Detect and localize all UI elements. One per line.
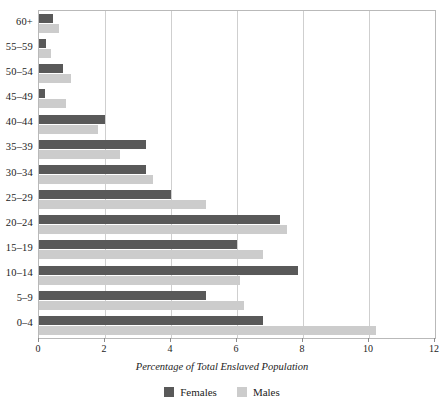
- bar-males: [39, 99, 66, 108]
- y-axis-tick-label: 35–39: [0, 141, 33, 152]
- bar-males: [39, 125, 98, 134]
- bar-females: [39, 240, 237, 249]
- bar-group: [39, 212, 435, 237]
- bar-males: [39, 276, 240, 285]
- bar-group: [39, 237, 435, 262]
- y-axis-tick-label: 25–29: [0, 192, 33, 203]
- x-axis-tick-mark: [104, 338, 105, 342]
- x-axis-title: Percentage of Total Enslaved Population: [0, 361, 444, 372]
- plot-area: [38, 10, 436, 339]
- y-axis-tick-label: 40–44: [0, 116, 33, 127]
- legend-item: Females: [164, 386, 217, 398]
- x-axis-tick-label: 4: [168, 343, 173, 354]
- y-axis-tick-label: 55–59: [0, 41, 33, 52]
- y-axis-tick-label: 20–24: [0, 217, 33, 228]
- bar-males: [39, 175, 153, 184]
- bar-males: [39, 301, 244, 310]
- bar-group: [39, 162, 435, 187]
- bar-males: [39, 225, 287, 234]
- x-axis-tick-label: 8: [300, 343, 305, 354]
- bar-females: [39, 266, 298, 275]
- x-axis-tick-mark: [38, 338, 39, 342]
- bar-group: [39, 313, 435, 338]
- y-axis-tick-label: 5–9: [0, 292, 33, 303]
- y-axis-labels: 0–45–910–1415–1920–2425–2930–3435–3940–4…: [0, 10, 33, 337]
- bar-females: [39, 165, 146, 174]
- bar-group: [39, 187, 435, 212]
- bar-females: [39, 140, 146, 149]
- y-axis-tick-label: 15–19: [0, 242, 33, 253]
- bar-rows: [39, 11, 435, 338]
- bar-females: [39, 39, 46, 48]
- bar-group: [39, 61, 435, 86]
- x-axis-tick-label: 6: [234, 343, 239, 354]
- bar-females: [39, 64, 63, 73]
- y-axis-tick-label: 60+: [0, 16, 33, 27]
- y-axis-tick-label: 10–14: [0, 267, 33, 278]
- x-axis-tick-mark: [368, 338, 369, 342]
- bar-males: [39, 74, 71, 83]
- legend-item: Males: [237, 386, 280, 398]
- bar-males: [39, 326, 376, 335]
- bar-group: [39, 288, 435, 313]
- legend-swatch-males: [237, 387, 247, 397]
- bar-group: [39, 263, 435, 288]
- bar-males: [39, 250, 263, 259]
- bar-group: [39, 11, 435, 36]
- bar-group: [39, 86, 435, 111]
- bar-group: [39, 137, 435, 162]
- x-axis-tick-label: 10: [363, 343, 373, 354]
- y-axis-tick-label: 50–54: [0, 66, 33, 77]
- x-axis-tick-label: 0: [36, 343, 41, 354]
- bar-females: [39, 89, 45, 98]
- y-axis-tick-label: 45–49: [0, 91, 33, 102]
- x-axis-tick-label: 12: [429, 343, 439, 354]
- bar-males: [39, 200, 206, 209]
- x-axis-tick-mark: [170, 338, 171, 342]
- chart-legend: FemalesMales: [0, 386, 444, 398]
- bar-group: [39, 112, 435, 137]
- x-axis-ticks: 024681012: [0, 338, 444, 356]
- x-axis-tick-mark: [236, 338, 237, 342]
- bar-females: [39, 215, 280, 224]
- bar-females: [39, 190, 171, 199]
- x-axis-tick-label: 2: [102, 343, 107, 354]
- bar-females: [39, 115, 105, 124]
- bar-females: [39, 14, 53, 23]
- x-axis-tick-mark: [302, 338, 303, 342]
- bar-males: [39, 24, 59, 33]
- legend-label: Females: [180, 386, 217, 398]
- y-axis-tick-label: 30–34: [0, 167, 33, 178]
- bar-females: [39, 316, 263, 325]
- bar-males: [39, 49, 51, 58]
- bar-females: [39, 291, 206, 300]
- legend-swatch-females: [164, 387, 174, 397]
- legend-label: Males: [253, 386, 280, 398]
- bar-group: [39, 36, 435, 61]
- x-axis-tick-mark: [434, 338, 435, 342]
- y-axis-tick-label: 0–4: [0, 317, 33, 328]
- chart-container: 0–45–910–1415–1920–2425–2930–3435–3940–4…: [0, 0, 444, 412]
- bar-males: [39, 150, 120, 159]
